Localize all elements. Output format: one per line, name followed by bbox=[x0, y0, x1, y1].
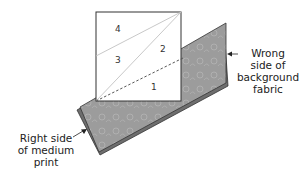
label-right-side: Right side of medium print bbox=[18, 132, 75, 168]
svg-text:background: background bbox=[237, 71, 299, 83]
svg-text:print: print bbox=[34, 156, 59, 168]
section-number-4: 4 bbox=[115, 24, 121, 34]
arrow-left-line bbox=[73, 131, 83, 137]
arrow-right-head-icon bbox=[227, 52, 232, 57]
svg-text:of medium: of medium bbox=[18, 144, 75, 156]
section-number-2: 2 bbox=[160, 44, 166, 54]
quilt-diagram: 4 3 2 1 Wrong side of background fabric … bbox=[0, 0, 302, 176]
section-number-1: 1 bbox=[151, 82, 157, 92]
svg-text:side of: side of bbox=[251, 59, 286, 71]
section-number-3: 3 bbox=[115, 55, 121, 65]
svg-text:Wrong: Wrong bbox=[251, 47, 285, 59]
label-wrong-side: Wrong side of background fabric bbox=[237, 47, 299, 95]
svg-text:Right side: Right side bbox=[20, 132, 73, 144]
svg-text:fabric: fabric bbox=[253, 83, 283, 95]
